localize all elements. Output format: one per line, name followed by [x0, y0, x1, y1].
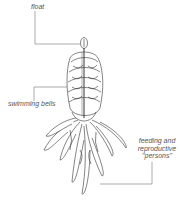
swimming-bells-label: swimming bells [8, 100, 55, 108]
float-label: float [31, 3, 44, 11]
swimming-bells-leader-line [34, 87, 68, 101]
feeding-reproductive-label: feeding and reproductive "persons" [134, 137, 180, 160]
feeding-leader-line [100, 162, 152, 184]
feeding-label-line-2: reproductive [134, 145, 180, 153]
feeding-label-line-3: "persons" [134, 152, 180, 160]
organism-drawing [44, 38, 126, 195]
float-leader-line [35, 11, 80, 44]
feeding-label-line-1: feeding and [134, 137, 180, 145]
